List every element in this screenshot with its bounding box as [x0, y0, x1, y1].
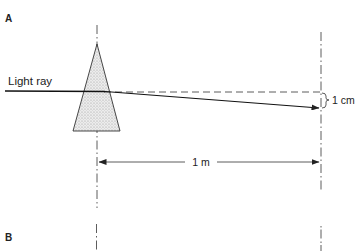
prism	[73, 44, 120, 131]
deviation-label: 1 cm	[332, 94, 355, 106]
incident-light-ray	[5, 91, 105, 92]
deviation-brace-icon	[322, 93, 329, 108]
panel-b-label: B	[5, 232, 12, 243]
prism-deviation-diagram: A Light ray 1 cm 1 m B	[0, 0, 360, 251]
deviated-light-ray	[105, 92, 319, 109]
panel-a-label: A	[5, 13, 12, 24]
distance-label: 1 m	[192, 156, 210, 168]
light-ray-label: Light ray	[8, 75, 52, 87]
